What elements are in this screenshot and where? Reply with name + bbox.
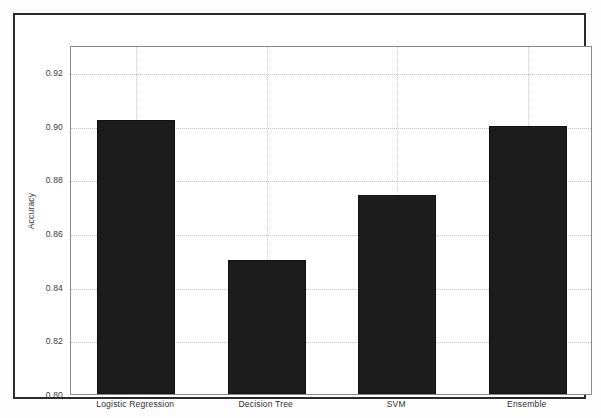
y-tick-label: 0.90: [46, 122, 63, 132]
figure-frame: 0.920.900.880.860.840.820.80 Logistic Re…: [13, 13, 586, 399]
x-tick-label: Ensemble: [507, 399, 546, 409]
y-axis-tick-labels: 0.920.900.880.860.840.820.80: [15, 46, 63, 395]
x-tick-label: SVM: [387, 399, 406, 409]
y-tick-label: 0.84: [46, 283, 63, 293]
y-axis-title: Accuracy: [26, 193, 36, 230]
y-tick-label: 0.92: [46, 68, 63, 78]
x-axis-tick-labels: Logistic RegressionDecision TreeSVMEnsem…: [70, 15, 592, 418]
y-tick-label: 0.82: [46, 336, 63, 346]
y-tick-label: 0.80: [46, 390, 63, 400]
y-tick-label: 0.88: [46, 175, 63, 185]
x-tick-label: Logistic Regression: [96, 399, 174, 409]
x-tick-label: Decision Tree: [238, 399, 293, 409]
y-tick-label: 0.86: [46, 229, 63, 239]
